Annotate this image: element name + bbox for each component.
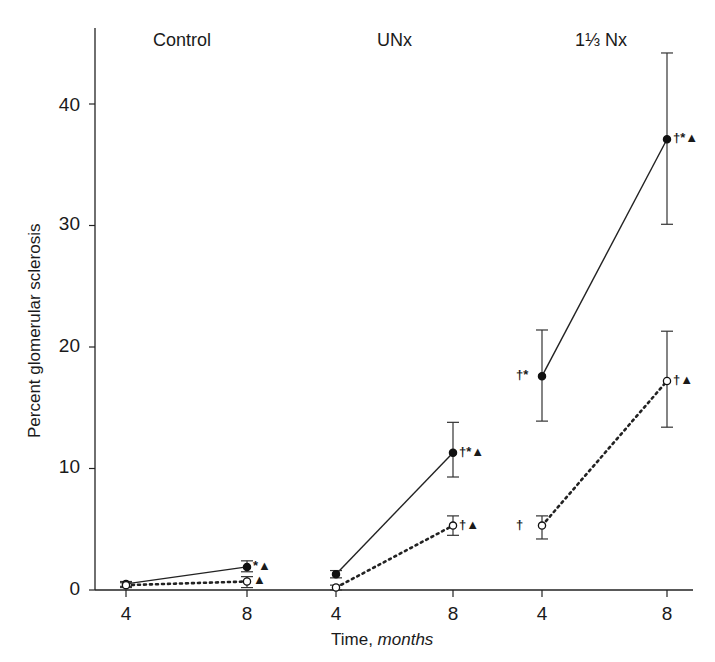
significance-marker: †▲ bbox=[673, 372, 693, 387]
significance-marker: †* bbox=[516, 367, 528, 382]
chart: Control UNx 1⅓ Nx 0 10 20 30 40 4 8 4 8 … bbox=[0, 0, 715, 662]
ytick-label: 0 bbox=[40, 578, 80, 600]
group-label-control: Control bbox=[153, 30, 211, 51]
open-circle-marker bbox=[663, 377, 670, 384]
group-label-1-third-nx: 1⅓ Nx bbox=[575, 30, 627, 51]
xtick-label: 8 bbox=[232, 603, 262, 625]
open-circle-marker bbox=[449, 522, 456, 529]
series-line-dotted bbox=[542, 381, 667, 526]
xtick-label: 4 bbox=[527, 603, 557, 625]
filled-circle-marker bbox=[243, 563, 250, 570]
significance-marker: †*▲ bbox=[459, 444, 484, 459]
xtick-label: 8 bbox=[652, 603, 682, 625]
ytick-label: 20 bbox=[40, 335, 80, 357]
significance-marker: *▲ bbox=[253, 558, 271, 573]
ytick-label: 30 bbox=[40, 213, 80, 235]
open-circle-marker bbox=[538, 522, 545, 529]
open-circle-marker bbox=[122, 582, 129, 589]
filled-circle-marker bbox=[449, 449, 456, 456]
significance-marker: ▲ bbox=[253, 572, 266, 587]
filled-circle-marker bbox=[538, 373, 545, 380]
filled-circle-marker bbox=[663, 136, 670, 143]
x-axis-label: Time, months bbox=[331, 630, 433, 650]
series-line-solid bbox=[542, 139, 667, 376]
significance-marker: † bbox=[516, 517, 523, 532]
significance-marker: †▲ bbox=[459, 517, 479, 532]
xtick-label: 8 bbox=[438, 603, 468, 625]
open-circle-marker bbox=[332, 584, 339, 591]
plot-area bbox=[0, 0, 715, 662]
ytick-label: 10 bbox=[40, 456, 80, 478]
filled-circle-marker bbox=[332, 571, 339, 578]
xtick-label: 4 bbox=[111, 603, 141, 625]
x-axis-label-plain: Time, bbox=[331, 630, 378, 649]
ytick-label: 40 bbox=[40, 94, 80, 116]
xtick-label: 4 bbox=[321, 603, 351, 625]
significance-marker: †*▲ bbox=[673, 130, 698, 145]
open-circle-marker bbox=[243, 578, 250, 585]
group-label-unx: UNx bbox=[377, 30, 412, 51]
y-axis-label: Percent glomerular sclerosis bbox=[25, 224, 45, 438]
x-axis-label-unit: months bbox=[378, 630, 434, 649]
